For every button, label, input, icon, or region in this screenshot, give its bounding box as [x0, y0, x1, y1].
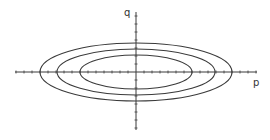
p-axis-label: p [253, 77, 259, 88]
axes [15, 12, 257, 130]
phase-plot: p q [0, 0, 270, 140]
q-axis-label: q [124, 7, 130, 18]
